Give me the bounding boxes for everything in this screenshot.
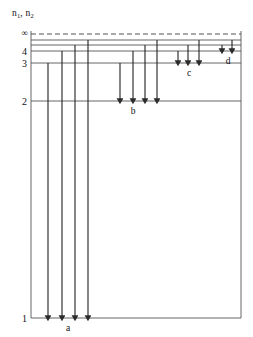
tick-label-infinity: ∞ [22, 28, 28, 38]
transition-group-labels: abcd [66, 56, 231, 333]
transition-group-label-c: c [187, 68, 191, 78]
tick-label-level-4: 4 [22, 46, 27, 57]
tick-label-level-3: 3 [22, 58, 27, 69]
energy-level-diagram: n1, n2 ∞4321 abcd [0, 0, 253, 337]
transition-group-label-b: b [131, 106, 136, 116]
diagram-canvas: n1, n2 ∞4321 abcd [0, 0, 253, 337]
tick-label-level-2: 2 [22, 96, 27, 107]
tick-label-level-1: 1 [22, 313, 27, 324]
transition-group-label-d: d [226, 56, 231, 66]
transition-group-label-a: a [66, 323, 71, 333]
y-axis-label: n1, n2 [12, 8, 34, 19]
y-axis-label-text: n1, n2 [12, 8, 34, 19]
level-tick-labels: ∞4321 [22, 28, 28, 324]
transition-arrows [48, 40, 232, 317]
